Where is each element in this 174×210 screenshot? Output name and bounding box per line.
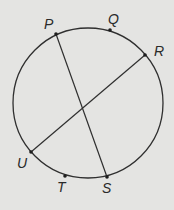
point-u: [29, 150, 33, 154]
point-q: [108, 28, 112, 32]
point-r: [143, 53, 147, 57]
label-q: Q: [108, 11, 119, 27]
circle-diagram: P Q R U T S: [0, 0, 174, 210]
chord-ru: [31, 55, 145, 152]
label-t: T: [57, 179, 67, 195]
label-u: U: [17, 155, 28, 171]
label-p: P: [44, 16, 54, 32]
chord-ps: [56, 34, 107, 177]
point-p: [54, 32, 58, 36]
point-t: [63, 174, 67, 178]
label-s: S: [102, 180, 112, 196]
label-r: R: [154, 43, 164, 59]
point-s: [105, 175, 109, 179]
